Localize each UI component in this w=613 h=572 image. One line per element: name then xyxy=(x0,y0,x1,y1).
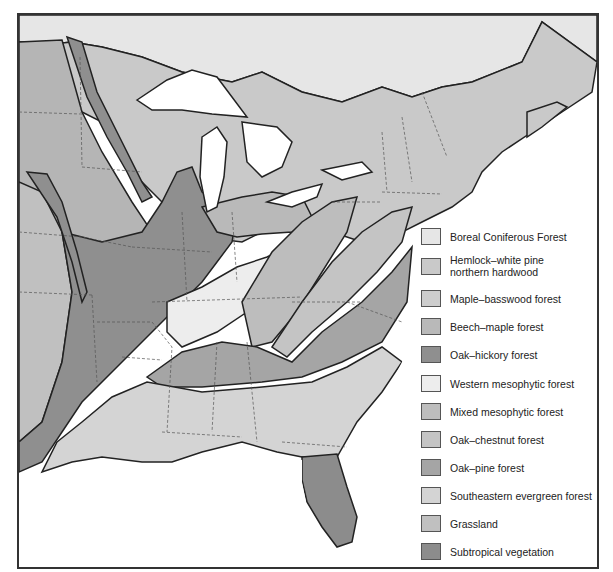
legend-swatch-subtropical xyxy=(421,543,441,560)
legend-swatch-boreal xyxy=(421,228,441,245)
legend-label: Hemlock–white pine northern hardwood xyxy=(450,254,544,278)
legend-item-grassland: Grassland xyxy=(421,515,498,532)
legend-swatch-oak-hickory xyxy=(421,346,441,363)
legend-item-boreal: Boreal Coniferous Forest xyxy=(421,228,567,245)
legend-label-line2: northern hardwood xyxy=(450,266,538,278)
legend-item-mixed-mesophytic: Mixed mesophytic forest xyxy=(421,403,563,420)
legend-label: Grassland xyxy=(450,518,498,530)
legend-swatch-mixed-mesophytic xyxy=(421,403,441,420)
legend-swatch-oak-pine xyxy=(421,459,441,476)
legend-swatch-oak-chestnut xyxy=(421,431,441,448)
legend-label: Southeastern evergreen forest xyxy=(450,490,592,502)
legend-label: Maple–basswood forest xyxy=(450,293,561,305)
legend-label: Oak–chestnut forest xyxy=(450,434,544,446)
legend-label: Beech–maple forest xyxy=(450,321,543,333)
legend-label: Western mesophytic forest xyxy=(450,378,574,390)
legend-swatch-maple-basswood xyxy=(421,290,441,307)
legend-item-oak-hickory: Oak–hickory forest xyxy=(421,346,538,363)
legend-label-line1: Hemlock–white pine xyxy=(450,254,544,266)
legend-label: Oak–pine forest xyxy=(450,462,524,474)
legend-swatch-hemlock xyxy=(421,258,441,275)
map-frame: Boreal Coniferous Forest Hemlock–white p… xyxy=(17,13,599,569)
legend-swatch-grassland xyxy=(421,515,441,532)
legend-item-maple-basswood: Maple–basswood forest xyxy=(421,290,561,307)
legend-item-hemlock: Hemlock–white pine northern hardwood xyxy=(421,254,544,278)
legend-item-southeastern-evergreen: Southeastern evergreen forest xyxy=(421,487,592,504)
legend-item-oak-pine: Oak–pine forest xyxy=(421,459,524,476)
legend-item-oak-chestnut: Oak–chestnut forest xyxy=(421,431,544,448)
legend-label: Mixed mesophytic forest xyxy=(450,406,563,418)
legend-label: Boreal Coniferous Forest xyxy=(450,231,567,243)
legend-item-subtropical: Subtropical vegetation xyxy=(421,543,554,560)
legend-label: Oak–hickory forest xyxy=(450,349,538,361)
legend-swatch-southeastern-evergreen xyxy=(421,487,441,504)
legend-swatch-western-mesophytic xyxy=(421,375,441,392)
legend-label: Subtropical vegetation xyxy=(450,546,554,558)
legend-item-beech-maple: Beech–maple forest xyxy=(421,318,543,335)
legend-item-western-mesophytic: Western mesophytic forest xyxy=(421,375,574,392)
legend-swatch-beech-maple xyxy=(421,318,441,335)
